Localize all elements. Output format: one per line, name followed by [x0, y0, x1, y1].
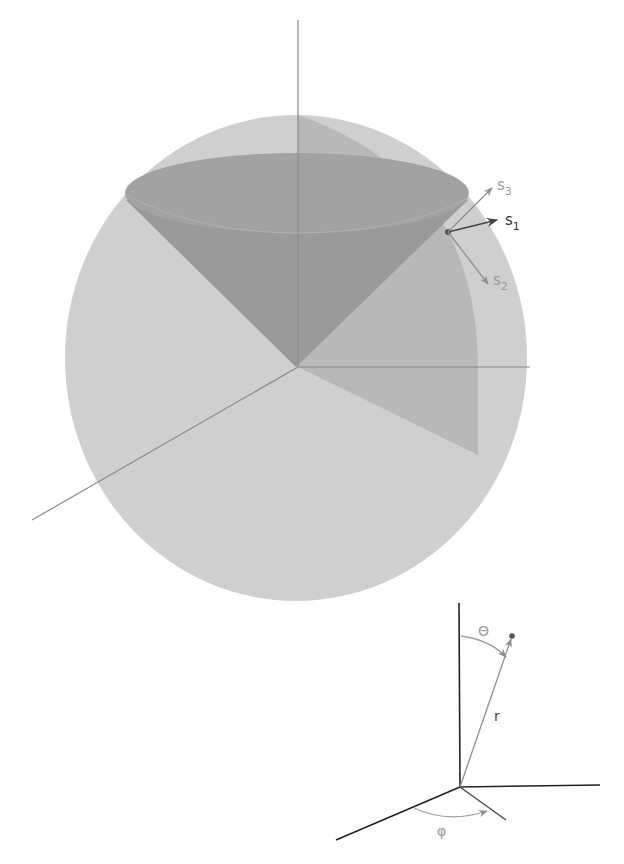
small-y-axis: [460, 785, 600, 787]
label-theta: Θ: [478, 623, 489, 639]
label-s1: s1: [505, 211, 520, 233]
coordinate-figure: Θ r φ: [336, 603, 600, 840]
radius-vector: [460, 639, 511, 787]
label-s3: s3: [497, 176, 512, 198]
sphere-diagram: s3 s1 s2 Θ r φ: [0, 0, 624, 864]
point-dot: [509, 633, 515, 639]
projection-line: [460, 787, 506, 820]
label-r: r: [494, 708, 500, 724]
phi-arc: [414, 808, 487, 817]
cone-top: [125, 153, 469, 233]
label-phi: φ: [437, 823, 446, 839]
theta-arc: [461, 636, 506, 657]
small-z-axis: [459, 603, 460, 787]
